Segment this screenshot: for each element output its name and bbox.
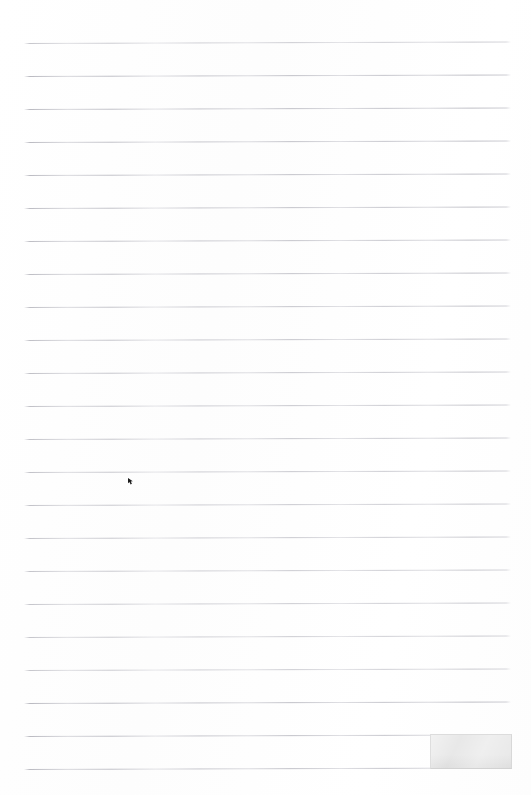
rule-line xyxy=(24,173,511,175)
rule-line xyxy=(24,305,511,308)
rule-line xyxy=(24,272,511,275)
rule-line xyxy=(24,536,511,539)
rule-line xyxy=(24,338,511,341)
rule-line xyxy=(24,668,511,671)
rule-line xyxy=(24,602,511,605)
rule-line xyxy=(24,470,511,473)
rule-line xyxy=(24,140,511,142)
rule-line xyxy=(24,404,511,407)
rule-line xyxy=(24,371,511,374)
lined-paper-page xyxy=(0,0,531,795)
ink-mark xyxy=(128,478,134,485)
rule-line xyxy=(24,635,511,638)
rule-line xyxy=(24,503,511,506)
rule-line xyxy=(24,569,511,572)
rule-line xyxy=(24,74,511,76)
rule-line xyxy=(24,239,511,241)
gray-patch xyxy=(430,734,512,769)
rule-line xyxy=(24,437,511,440)
rule-line xyxy=(24,107,511,109)
rule-line xyxy=(24,701,511,704)
rule-line xyxy=(24,206,511,208)
ruled-lines-layer xyxy=(0,0,531,795)
rule-line xyxy=(24,41,511,43)
